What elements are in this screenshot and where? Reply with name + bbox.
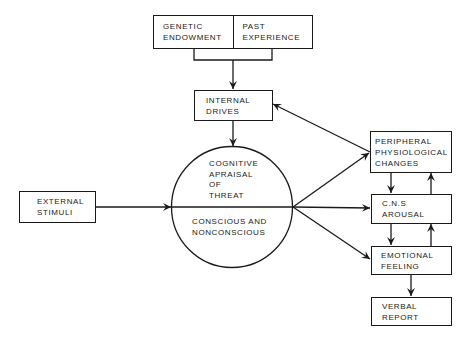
cns-arousal-box: C.N.S AROUSAL [371,194,452,224]
emotional-feeling-box: EMOTIONAL FEELING [371,246,452,275]
internal-drives-label: INTERNAL DRIVES [195,95,250,117]
past-experience-label: PAST EXPERIENCE [234,21,301,43]
arrow-appraisal-to-emotional [293,207,370,259]
past-experience-box: PAST EXPERIENCE [233,16,313,48]
arrow-peripheral-to-drives [273,104,370,152]
external-stimuli-box: EXTERNAL STIMULI [19,191,96,223]
cns-arousal-label: C.N.S AROUSAL [372,198,424,220]
genetic-endowment-box: GENETIC ENDOWMENT [154,16,233,48]
arrow-appraisal-to-cns [293,207,370,208]
genetic-endowment-label: GENETIC ENDOWMENT [154,21,222,43]
origins-box: GENETIC ENDOWMENT PAST EXPERIENCE [153,15,313,49]
external-stimuli-label: EXTERNAL STIMULI [20,196,84,218]
internal-drives-box: INTERNAL DRIVES [194,90,273,121]
conscious-nonconscious-label: CONSCIOUS AND NONCONSCIOUS [192,217,267,238]
verbal-report-label: VERBAL REPORT [372,301,419,323]
verbal-report-box: VERBAL REPORT [371,297,452,326]
emotional-feeling-label: EMOTIONAL FEELING [372,250,434,272]
cognitive-appraisal-label: COGNITIVE APRAISAL OF THREAT [209,159,258,201]
bracket-connector [194,48,272,60]
diagram-canvas: GENETIC ENDOWMENT PAST EXPERIENCE INTERN… [0,0,470,341]
peripheral-changes-box: PERIPHERAL PHYSIOLOGICAL CHANGES [370,131,452,173]
peripheral-changes-label: PERIPHERAL PHYSIOLOGICAL CHANGES [371,136,448,169]
arrow-appraisal-to-peripheral [293,153,369,207]
